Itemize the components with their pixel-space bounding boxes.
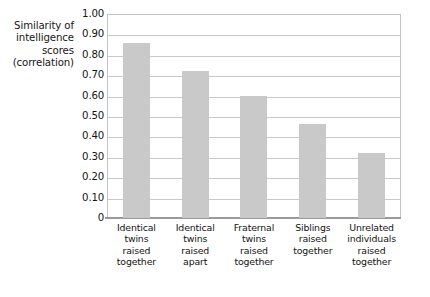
category-label-line: Identical: [107, 222, 165, 233]
category-label-line: raised: [166, 245, 224, 256]
category-label-line: twins: [166, 233, 224, 244]
category-label-line: raised: [225, 245, 283, 256]
bar[interactable]: [123, 43, 150, 218]
y-axis-tick-label: 0.70: [76, 70, 104, 80]
bars-layer: [107, 14, 401, 218]
x-axis-category-label: Identicaltwinsraisedtogether: [107, 222, 165, 267]
y-axis-tick-label: 1.00: [76, 9, 104, 19]
bar-slot: [107, 14, 165, 218]
bar[interactable]: [358, 153, 385, 218]
y-axis-title-line-3: scores: [0, 45, 74, 57]
y-axis-tick-label: 0.30: [76, 152, 104, 162]
x-axis-category-label: Siblingsraisedtogether: [284, 222, 342, 267]
x-axis-category-label: Unrelatedindividualsraisedtogether: [343, 222, 401, 267]
bar[interactable]: [240, 96, 267, 218]
y-axis-tick-labels: 1.000.900.800.700.600.500.400.300.200.10…: [76, 14, 104, 218]
category-label-line: together: [107, 256, 165, 267]
y-axis-tick-label: 0.40: [76, 131, 104, 141]
x-axis-category-labels: IdenticaltwinsraisedtogetherIdenticaltwi…: [107, 222, 401, 267]
y-axis-tick-label: 0.80: [76, 50, 104, 60]
category-label-line: together: [343, 256, 401, 267]
bar-slot: [225, 14, 283, 218]
bar-slot: [166, 14, 224, 218]
bar-slot: [284, 14, 342, 218]
y-axis-tick-label: 0.50: [76, 111, 104, 121]
category-label-line: Unrelated: [343, 222, 401, 233]
category-label-line: twins: [107, 233, 165, 244]
y-axis-tick-label: 0: [76, 213, 104, 223]
bar[interactable]: [182, 71, 209, 218]
category-label-line: raised: [284, 233, 342, 244]
y-axis-tick-label: 0.60: [76, 91, 104, 101]
y-axis-tick-label: 0.20: [76, 172, 104, 182]
category-label-line: Identical: [166, 222, 224, 233]
category-label-line: Siblings: [284, 222, 342, 233]
x-axis-category-label: Identicaltwinsraisedapart: [166, 222, 224, 267]
category-label-line: individuals: [343, 233, 401, 244]
y-axis-title: Similarity of intelligence scores (corre…: [0, 20, 74, 69]
category-label-line: raised: [343, 245, 401, 256]
category-label-line: Fraternal: [225, 222, 283, 233]
category-label-line: together: [225, 256, 283, 267]
bar-slot: [343, 14, 401, 218]
y-axis-title-line-2: intelligence: [0, 32, 74, 44]
y-axis-title-line-1: Similarity of: [0, 20, 74, 32]
category-label-line: raised: [107, 245, 165, 256]
category-label-line: apart: [166, 256, 224, 267]
bar-chart: Similarity of intelligence scores (corre…: [0, 0, 430, 297]
y-axis-tick-label: 0.90: [76, 29, 104, 39]
y-axis-title-line-4: (correlation): [0, 57, 74, 69]
category-label-line: together: [284, 245, 342, 256]
bar[interactable]: [299, 124, 326, 218]
y-axis-tick-label: 0.10: [76, 193, 104, 203]
category-label-line: twins: [225, 233, 283, 244]
x-axis-category-label: Fraternaltwinsraisedtogether: [225, 222, 283, 267]
